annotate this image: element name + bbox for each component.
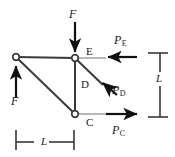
member-top-chord <box>16 57 75 58</box>
dimension-label-horizontal: L <box>41 136 47 147</box>
force-label-F-top: F <box>69 8 76 20</box>
force-label-PE-subscript: E <box>122 39 127 48</box>
node-label-C: C <box>86 117 93 128</box>
force-label-PD-symbol: P <box>112 83 119 97</box>
node-C <box>72 111 79 118</box>
dimension-vertical-L <box>148 53 168 117</box>
member-diagonal-chord <box>16 57 75 114</box>
member-label-D: D <box>81 79 89 90</box>
force-label-PC: PC <box>112 124 125 136</box>
force-label-PE-symbol: P <box>114 33 121 47</box>
force-label-PC-symbol: P <box>112 123 119 137</box>
node-A <box>13 54 20 61</box>
truss-diagram: F F E C D PE PD PC L L <box>0 0 175 157</box>
force-label-PE: PE <box>114 34 126 46</box>
force-label-PD-subscript: D <box>120 89 126 98</box>
force-label-PC-subscript: C <box>120 129 125 138</box>
force-label-F-left: F <box>11 95 18 107</box>
reference-lines <box>75 58 106 114</box>
truss-members <box>16 57 103 114</box>
node-label-E: E <box>86 46 93 57</box>
force-label-PD: PD <box>112 84 125 96</box>
dimension-label-vertical: L <box>156 73 162 84</box>
node-E <box>72 55 79 62</box>
